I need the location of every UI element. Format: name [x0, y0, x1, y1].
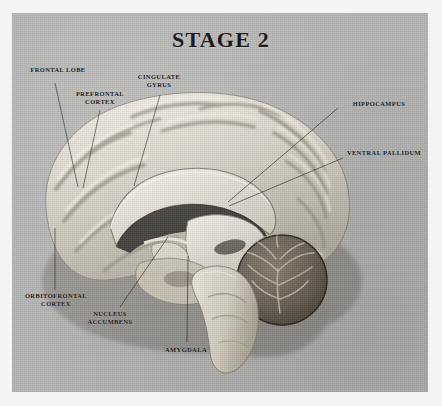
label-frontal-lobe: FRONTAL LOBE	[22, 66, 94, 74]
label-ventral-pallidum: VENTRAL PALLIDUM	[338, 149, 430, 157]
label-nucleus-accumbens: NUCLEUS ACCUMBENS	[72, 310, 148, 327]
figure-page: STAGE 2 FRONTAL LOBEPREFRONTAL CORTEXCIN…	[0, 0, 442, 406]
label-orbitofrontal-cortex: ORBITOFRONTAL CORTEX	[12, 292, 100, 309]
label-cingulate-gyrus: CINGULATE GYRUS	[126, 73, 192, 90]
label-hippocampus: HIPPOCAMPUS	[340, 100, 418, 108]
page-title: STAGE 2	[0, 27, 442, 53]
label-prefrontal-cortex: PREFRONTAL CORTEX	[64, 90, 136, 107]
label-amygdala: AMYGDALA	[148, 346, 224, 354]
